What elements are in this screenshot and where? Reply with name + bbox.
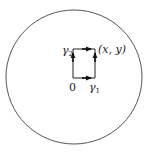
diagram-canvas: γ2 (x, y) 0 γ1 [0, 0, 148, 153]
point-xy-label: (x, y) [98, 43, 126, 56]
gamma2-label: γ2 [62, 44, 73, 58]
gamma1-label: γ1 [89, 81, 100, 95]
disk-boundary [6, 10, 142, 144]
origin-label: 0 [69, 81, 76, 94]
disk-path-diagram: γ2 (x, y) 0 γ1 [0, 0, 148, 153]
